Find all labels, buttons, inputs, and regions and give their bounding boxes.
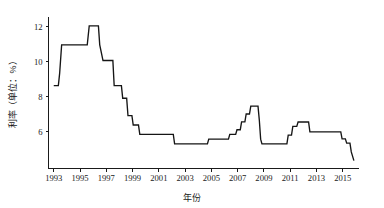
x-tick-label: 2003 — [177, 173, 194, 183]
x-tick-label: 2001 — [150, 173, 167, 183]
x-axis-title: 年份 — [183, 192, 201, 203]
y-tick-label: 10 — [34, 57, 43, 67]
axis-frame — [49, 17, 359, 169]
x-axis: 1993199519971999200120032005200720092011… — [45, 169, 351, 183]
x-tick-label: 1993 — [45, 173, 62, 183]
series-group — [54, 26, 354, 161]
x-tick-label: 2013 — [308, 173, 325, 183]
y-tick-label: 8 — [38, 92, 42, 102]
interest-rate-line — [54, 26, 354, 161]
x-tick-label: 1995 — [71, 173, 88, 183]
y-axis: 681012 — [34, 22, 49, 137]
x-tick-label: 2015 — [334, 173, 351, 183]
y-tick-label: 6 — [38, 127, 43, 137]
y-tick-label: 12 — [34, 22, 43, 32]
x-tick-label: 2005 — [203, 173, 220, 183]
x-tick-label: 1997 — [98, 173, 116, 183]
plot-frame — [49, 17, 359, 169]
x-tick-label: 1999 — [124, 173, 141, 183]
x-tick-label: 2007 — [229, 173, 247, 183]
x-tick-label: 2011 — [282, 173, 299, 183]
y-axis-title: 利率（单位：%） — [7, 56, 18, 127]
chart-canvas: 681012 199319951997199920012003200520072… — [0, 0, 384, 208]
interest-rate-chart: 681012 199319951997199920012003200520072… — [0, 0, 384, 208]
x-tick-label: 2009 — [255, 173, 272, 183]
